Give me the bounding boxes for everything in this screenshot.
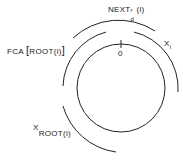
diagram-canvas: NEXTrd(i) FCA [ROOT(i)] Xi 0 XROOT(i) (0, 0, 183, 167)
xroot-label: XROOT(i) (33, 124, 71, 132)
next-label: NEXTrd(i) (108, 6, 145, 14)
circle-arcs-diagram (0, 0, 183, 167)
fca-arc (63, 32, 106, 86)
zero-label: 0 (118, 50, 123, 58)
fca-label: FCA [ROOT(i)] (7, 45, 65, 56)
xi-label: Xi (164, 40, 171, 48)
